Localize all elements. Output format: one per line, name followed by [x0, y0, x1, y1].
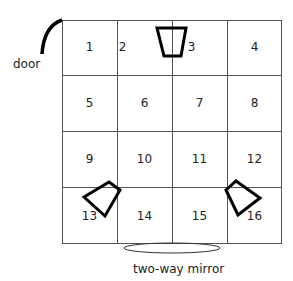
- cell-8: 8: [227, 96, 282, 110]
- cell-13: 13: [62, 209, 117, 223]
- cell-2: 2: [95, 40, 150, 54]
- room-diagram: door two-way mirror 1 2 3 4 5 6 7 8 9 10…: [0, 0, 293, 281]
- door-label: door: [13, 57, 40, 71]
- cell-3: 3: [164, 40, 219, 54]
- cell-6: 6: [117, 96, 172, 110]
- mirror-shape: [124, 243, 220, 253]
- cell-7: 7: [172, 96, 227, 110]
- mirror-label: two-way mirror: [133, 262, 224, 276]
- cell-16: 16: [227, 209, 282, 223]
- cell-9: 9: [62, 152, 117, 166]
- cell-4: 4: [227, 40, 282, 54]
- cell-14: 14: [117, 209, 172, 223]
- cell-15: 15: [172, 209, 227, 223]
- cell-10: 10: [117, 152, 172, 166]
- cell-5: 5: [62, 96, 117, 110]
- door-arc-icon: [42, 20, 62, 54]
- cell-12: 12: [227, 152, 282, 166]
- cell-11: 11: [172, 152, 227, 166]
